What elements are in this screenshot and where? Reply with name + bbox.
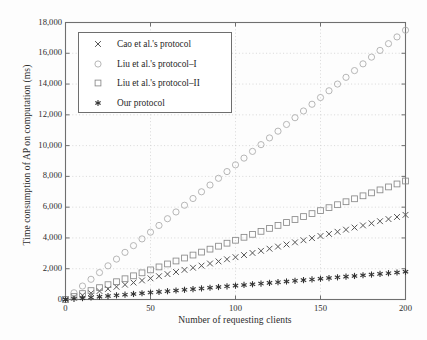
data-point (224, 256, 230, 262)
data-point (335, 274, 340, 280)
data-point (360, 193, 366, 199)
data-point (97, 288, 103, 294)
data-point (173, 258, 179, 264)
x-tick-label: 100 (211, 303, 261, 313)
data-point (224, 168, 230, 174)
chart-figure: Time consumption of AP on computation (m… (0, 0, 427, 340)
data-point (386, 216, 392, 222)
data-point (377, 187, 383, 193)
data-point (190, 195, 196, 201)
data-point (216, 259, 222, 265)
data-point (275, 279, 280, 285)
data-point (105, 286, 111, 292)
data-point (267, 246, 273, 252)
data-point (267, 226, 273, 232)
data-point (105, 293, 110, 299)
data-point (199, 285, 204, 291)
data-point (182, 255, 188, 261)
y-tick-label: 16,000 (8, 47, 62, 57)
data-point (241, 252, 247, 258)
data-point (216, 284, 221, 290)
legend-label: Liu et al.'s protocol–I (117, 59, 197, 69)
data-point (165, 261, 171, 267)
data-point (284, 220, 290, 226)
data-point (131, 291, 136, 297)
data-point (351, 67, 357, 73)
data-point (122, 276, 128, 282)
x-tick-label: 200 (381, 303, 427, 313)
x-tick-label: 50 (126, 303, 176, 313)
data-point (96, 269, 102, 275)
data-point (139, 290, 144, 296)
data-point (139, 236, 145, 242)
data-point (352, 273, 357, 279)
data-point (88, 276, 94, 282)
data-point (335, 202, 341, 208)
data-point (335, 229, 341, 235)
y-tick-label: 12,000 (8, 109, 62, 119)
data-point (377, 47, 383, 53)
legend-entry: Our protocol (79, 93, 231, 113)
y-tick-label: 8,000 (8, 170, 62, 180)
data-point (360, 272, 365, 278)
data-point (95, 80, 101, 86)
data-point (114, 279, 120, 285)
data-point (233, 283, 238, 289)
data-point (343, 274, 348, 280)
data-point (283, 121, 289, 127)
data-point (309, 276, 314, 282)
data-point (275, 128, 281, 134)
x-marker-icon (79, 36, 117, 52)
data-point (284, 242, 290, 248)
data-point (122, 249, 128, 255)
data-point (131, 280, 137, 286)
data-point (377, 218, 383, 224)
data-point (318, 208, 324, 214)
data-point (266, 135, 272, 141)
data-point (224, 240, 230, 246)
data-point (343, 227, 349, 233)
data-point (95, 41, 101, 47)
data-point (165, 288, 170, 294)
data-point (173, 209, 179, 215)
data-point (284, 278, 289, 284)
data-point (292, 217, 298, 223)
data-point (122, 292, 127, 298)
data-point (326, 88, 332, 94)
data-point (394, 269, 399, 275)
legend-entry: Cao et al.'s protocol (79, 34, 231, 54)
data-point (258, 228, 264, 234)
data-point (250, 231, 256, 237)
data-point (326, 205, 332, 211)
data-point (394, 181, 400, 187)
data-point (292, 115, 298, 121)
x-tick-label: 0 (41, 303, 91, 313)
data-point (122, 282, 128, 288)
y-tick-label: 6,000 (8, 201, 62, 211)
data-point (258, 280, 263, 286)
data-point (113, 256, 119, 262)
data-point (318, 276, 323, 282)
data-point (199, 249, 205, 255)
legend-entry: Liu et al.'s protocol–I (79, 54, 231, 74)
data-point (190, 252, 196, 258)
data-point (199, 263, 205, 269)
data-point (403, 269, 408, 275)
data-point (80, 295, 85, 301)
data-point (249, 148, 255, 154)
y-tick-label: 2,000 (8, 263, 62, 273)
data-point (275, 244, 281, 250)
data-point (386, 270, 391, 276)
y-tick-label: 14,000 (8, 78, 62, 88)
data-point (394, 34, 400, 40)
data-point (352, 225, 358, 231)
data-point (95, 60, 101, 66)
data-point (394, 214, 400, 220)
data-point (207, 246, 213, 252)
data-point (292, 278, 297, 284)
legend-label: Liu et al.'s protocol–II (117, 78, 200, 88)
data-point (250, 281, 255, 287)
data-point (198, 189, 204, 195)
asterisk-marker-icon (79, 95, 117, 111)
data-point (386, 184, 392, 190)
